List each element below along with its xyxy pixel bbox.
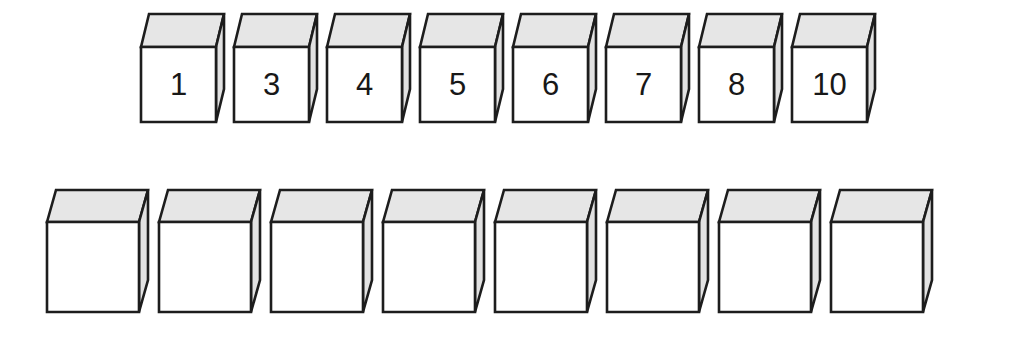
cube [267,186,376,316]
cube-top-face [607,190,708,222]
cube-top-face [495,190,596,222]
cube [603,186,712,316]
cube [827,186,936,316]
cube [43,186,152,316]
cube [155,186,264,316]
cube-label [47,222,139,312]
cube-top-face [831,190,932,222]
cube-top-face [271,190,372,222]
cube [715,186,824,316]
cube-top-face [719,190,820,222]
diagram-canvas: 134567810 [0,0,1033,351]
cube-label [271,222,363,312]
cube-top-face [159,190,260,222]
cube-top-face [383,190,484,222]
cube-label [383,222,475,312]
cube-label [495,222,587,312]
cube-label [831,222,923,312]
blank-cube-row [0,0,1033,351]
cube-label [607,222,699,312]
cube [491,186,600,316]
cube [379,186,488,316]
cube-label [719,222,811,312]
cube-top-face [47,190,148,222]
cube-label [159,222,251,312]
